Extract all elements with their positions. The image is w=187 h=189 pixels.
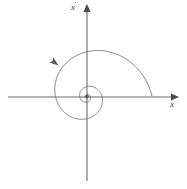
phase-plane-figure: x x — [0, 0, 187, 189]
spiral-trajectory — [55, 51, 152, 120]
equilibrium-point-dot — [85, 95, 88, 98]
horizontal-axis-label: x — [170, 100, 174, 109]
vertical-axis-arrow-icon — [83, 4, 90, 12]
horizontal-axis — [8, 93, 179, 100]
phase-plane-canvas — [0, 0, 187, 189]
direction-arrowhead-icon — [49, 58, 60, 68]
vertical-axis-label: x — [71, 3, 75, 12]
vertical-axis — [83, 4, 90, 181]
